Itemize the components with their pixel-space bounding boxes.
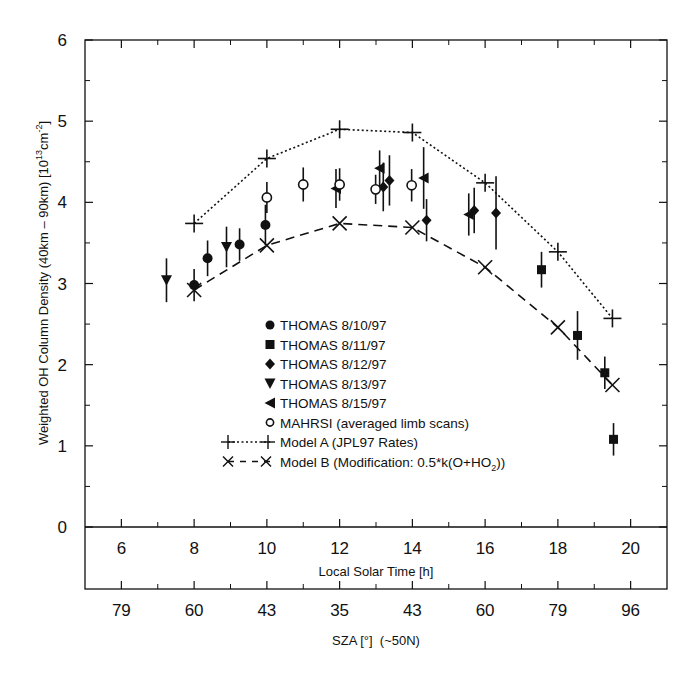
legend-label: Model A (JPL97 Rates) <box>280 435 418 450</box>
y-axis-title: Weighted OH Column Density (40km – 90km)… <box>34 121 51 445</box>
legend-item: MAHRSI (averaged limb scans) <box>266 416 469 431</box>
sza-tick-label: 96 <box>621 601 640 620</box>
x-axis-local-solar-time: 68101214161820 <box>117 40 640 558</box>
plus-marker <box>258 150 276 168</box>
triangle-down-marker <box>161 275 172 286</box>
series-thomas-8-12-97 <box>378 155 501 249</box>
legend-item: THOMAS 8/10/97 <box>266 318 387 333</box>
legend-item: THOMAS 8/13/97 <box>265 377 387 392</box>
cross-marker <box>551 320 565 334</box>
legend-label: THOMAS 8/15/97 <box>280 396 387 411</box>
series-mahrsi-averaged-limb-scans <box>262 167 416 212</box>
x-tick-label: 14 <box>403 539 422 558</box>
series-model-a-jpl97-rates <box>185 120 621 327</box>
sza-tick-label: 43 <box>403 601 422 620</box>
legend-label: THOMAS 8/10/97 <box>280 318 387 333</box>
cross-marker <box>478 260 492 274</box>
circle-filled-marker <box>266 321 275 330</box>
circle-open-marker <box>299 180 308 189</box>
circle-open-marker <box>335 180 344 189</box>
circle-filled-marker <box>203 253 213 263</box>
square-marker <box>266 340 275 349</box>
circle-open-marker <box>407 181 416 190</box>
triangle-down-marker <box>221 242 232 253</box>
x-axis-title-local-solar-time: Local Solar Time [h] <box>319 564 434 579</box>
triangle-left-marker <box>265 398 276 409</box>
legend-label: MAHRSI (averaged limb scans) <box>280 416 469 431</box>
legend-item: Model B (Modification: 0.5*k(O+HO2)) <box>223 455 505 473</box>
y-tick-label: 3 <box>58 275 67 294</box>
series-thomas-8-11-97 <box>537 252 618 456</box>
plus-marker <box>185 214 203 232</box>
circle-filled-marker <box>260 220 270 230</box>
x-tick-label: 20 <box>621 539 640 558</box>
circle-open-marker <box>266 419 273 426</box>
diamond-marker <box>422 215 432 226</box>
plot-frame <box>85 40 667 589</box>
sza-tick-label: 60 <box>476 601 495 620</box>
sza-tick-label: 79 <box>112 601 131 620</box>
sza-tick-label: 79 <box>548 601 567 620</box>
plot-border <box>85 40 667 589</box>
circle-open-marker <box>262 193 271 202</box>
plus-marker <box>603 309 621 327</box>
diamond-marker <box>491 207 501 218</box>
plus-marker <box>476 174 494 192</box>
x-tick-label: 16 <box>476 539 495 558</box>
legend-item: THOMAS 8/15/97 <box>265 396 387 411</box>
legend-item: Model A (JPL97 Rates) <box>221 435 418 450</box>
legend-label: Model B (Modification: 0.5*k(O+HO2)) <box>280 455 505 473</box>
legend-label: THOMAS 8/13/97 <box>280 377 387 392</box>
circle-open-marker <box>371 185 380 194</box>
x-tick-label: 18 <box>548 539 567 558</box>
y-tick-label: 1 <box>58 437 67 456</box>
dotted-line <box>194 129 612 318</box>
y-tick-label: 2 <box>58 356 67 375</box>
sza-tick-label: 60 <box>185 601 204 620</box>
triangle-down-marker <box>265 379 276 390</box>
x-axis-sza: 7960433543607996 <box>112 581 640 620</box>
y-tick-label: 5 <box>58 112 67 131</box>
series-layer <box>161 120 621 455</box>
sza-tick-label: 43 <box>257 601 276 620</box>
cross-marker <box>605 378 619 392</box>
cross-marker <box>260 238 274 252</box>
legend-label: THOMAS 8/12/97 <box>280 357 387 372</box>
plus-marker <box>331 120 349 138</box>
series-thomas-8-13-97 <box>161 227 232 302</box>
x-tick-label: 10 <box>257 539 276 558</box>
circle-filled-marker <box>235 240 245 250</box>
dashed-line <box>194 223 612 385</box>
legend-item: THOMAS 8/12/97 <box>265 357 387 372</box>
oh-column-density-chart: 0123456 68101214161820 7960433543607996 … <box>0 0 700 678</box>
y-tick-label: 6 <box>58 31 67 50</box>
x-tick-label: 12 <box>330 539 349 558</box>
square-marker <box>573 331 582 340</box>
sza-tick-label: 35 <box>330 601 349 620</box>
legend-label: THOMAS 8/11/97 <box>280 338 386 353</box>
diamond-marker <box>265 359 275 370</box>
series-thomas-8-10-97 <box>189 205 270 302</box>
square-marker <box>600 368 609 377</box>
y-tick-label: 4 <box>58 193 67 212</box>
square-marker <box>537 265 546 274</box>
x-tick-label: 6 <box>117 539 126 558</box>
plus-marker <box>403 124 421 142</box>
y-tick-label: 0 <box>58 518 67 537</box>
diamond-marker <box>384 175 394 186</box>
series-model-b-modification-0-5-k-o-ho2 <box>187 216 619 392</box>
x-tick-label: 8 <box>189 539 198 558</box>
square-marker <box>609 435 618 444</box>
x-axis-title-sza: SZA [°] (~50N) <box>332 633 420 648</box>
legend: THOMAS 8/10/97THOMAS 8/11/97THOMAS 8/12/… <box>221 318 505 473</box>
legend-item: THOMAS 8/11/97 <box>266 338 386 353</box>
